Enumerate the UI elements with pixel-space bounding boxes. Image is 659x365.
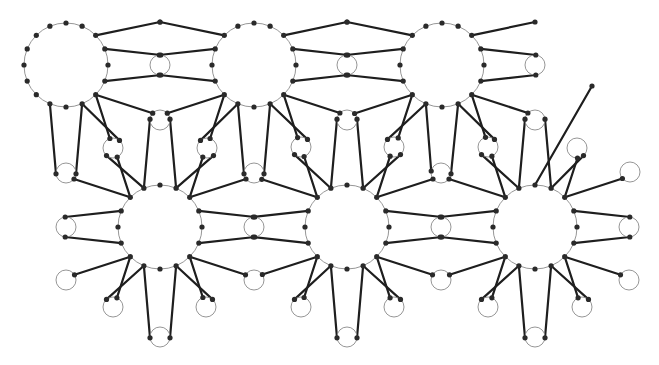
node-dot [439, 104, 444, 109]
node-dot [589, 83, 594, 88]
strand-line [355, 95, 413, 114]
geometric-pattern [0, 0, 659, 365]
node-dot [290, 79, 295, 84]
node-dot [438, 214, 443, 219]
strand-line [190, 157, 203, 197]
node-dot [167, 335, 172, 340]
node-dot [490, 224, 495, 229]
node-dot [187, 254, 192, 259]
node-dot [315, 195, 320, 200]
strand-line [190, 257, 203, 298]
node-dot [397, 62, 402, 67]
node-dot [157, 19, 162, 24]
node-dot [268, 24, 273, 29]
strand-line [262, 179, 318, 197]
strand-line [545, 119, 551, 188]
node-dot [47, 24, 52, 29]
node-dot [53, 171, 58, 176]
strand-line [440, 237, 496, 243]
node-dot [80, 24, 85, 29]
node-dot [410, 33, 415, 38]
strand-line [565, 179, 623, 198]
node-dot [104, 297, 109, 302]
node-dot [196, 208, 201, 213]
strand-line [199, 211, 255, 217]
connector-circle [337, 327, 357, 347]
node-dot [115, 155, 120, 160]
strand-line [144, 266, 150, 338]
node-dot [187, 195, 192, 200]
node-dot [410, 92, 415, 97]
node-dot [386, 224, 391, 229]
node-dot [167, 117, 172, 122]
node-dot [71, 176, 76, 181]
node-dot [575, 155, 580, 160]
node-dot [63, 104, 68, 109]
node-dot [494, 208, 499, 213]
node-dot [532, 266, 537, 271]
node-dot [429, 168, 434, 173]
node-dot [549, 186, 554, 191]
node-dot [469, 92, 474, 97]
node-dot [147, 335, 152, 340]
strand-line [304, 157, 317, 198]
strand-line [377, 156, 390, 197]
strand-line [284, 95, 340, 113]
strand-line [117, 157, 130, 197]
node-dot [334, 117, 339, 122]
node-dot [525, 110, 530, 115]
node-dot [199, 224, 204, 229]
strand-line [377, 257, 433, 275]
node-dot [438, 234, 443, 239]
diagram-canvas: Interlaced 16-point rosette lattice with… [0, 0, 659, 365]
strand-line [545, 266, 551, 338]
node-dot [503, 254, 508, 259]
node-dot [119, 208, 124, 213]
node-dot [627, 214, 632, 219]
node-dot [374, 254, 379, 259]
strand-line [284, 22, 347, 35]
strand-line [481, 49, 536, 55]
node-dot [241, 171, 246, 176]
node-dot [290, 46, 295, 51]
strand-line [565, 257, 621, 275]
node-dot [576, 295, 581, 300]
node-dot [292, 297, 297, 302]
strand-line [377, 257, 390, 298]
strand-line [253, 211, 308, 217]
node-dot [47, 101, 52, 106]
node-dot [478, 46, 483, 51]
node-dot [618, 272, 623, 277]
strand-line [65, 211, 121, 217]
strand-line [519, 266, 525, 338]
node-dot [128, 254, 133, 259]
strand-line [284, 95, 298, 138]
node-dot [93, 92, 98, 97]
node-dot [361, 186, 366, 191]
node-dot [344, 182, 349, 187]
strand-line [386, 237, 442, 243]
node-dot [302, 154, 307, 159]
strand-line [565, 257, 578, 298]
node-dot [211, 153, 216, 158]
strand-line [190, 179, 246, 197]
strand-line [377, 179, 433, 197]
node-dot [456, 24, 461, 29]
node-dot [446, 176, 451, 181]
strand-line [159, 75, 215, 81]
node-dot [260, 272, 265, 277]
node-dot [354, 335, 359, 340]
node-dot [423, 101, 428, 106]
strand-line [144, 119, 150, 188]
node-dot [388, 154, 393, 159]
node-dot [251, 104, 256, 109]
node-dot [401, 79, 406, 84]
connector-circle [337, 55, 357, 75]
strand-line [450, 257, 506, 275]
connector-circle [244, 217, 264, 237]
connector-circle [525, 327, 545, 347]
node-dot [516, 263, 521, 268]
strand-line [440, 211, 496, 217]
node-dot [165, 111, 170, 116]
node-dot [200, 155, 205, 160]
